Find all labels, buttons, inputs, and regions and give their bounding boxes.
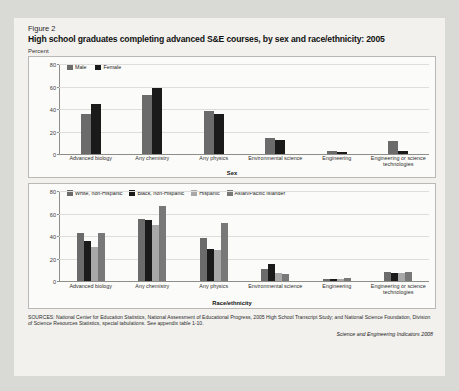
y-tick-mark [57,87,59,88]
bar [142,95,152,154]
bar [261,269,268,281]
chart-panel-race: White, non-HispanicBlack, non-HispanicHi… [28,183,436,309]
bar [77,233,84,281]
bar [384,272,391,281]
bar-group [183,65,245,154]
source-note: SOURCES: National Center for Education S… [28,314,433,327]
bar [275,140,285,154]
y-tick-mark [57,191,59,192]
y-tick-mark [57,259,59,260]
y-tick-mark [57,281,59,282]
bar [391,273,398,281]
bar [268,264,275,281]
y-tick-label: 80 [50,62,56,68]
unit-label: Percent [28,47,435,55]
y-tick-mark [57,64,59,65]
bar [265,138,275,154]
bar [327,151,337,154]
y-tick-mark [57,154,59,155]
bar [405,272,412,281]
y-tick-mark [57,132,59,133]
x-tick-label: Any physics [183,283,245,295]
bar [91,247,98,281]
bar-group [245,65,307,154]
y-tick-label: 0 [53,152,56,158]
bar [200,238,207,281]
y-tick-mark [57,109,59,110]
bar-group [245,192,307,281]
bar [98,233,105,281]
chart-panel-sex: MaleFemale 020406080 Advanced biologyAny… [28,56,436,178]
bar [84,241,91,281]
x-tick-label: Any chemistry [122,155,184,167]
bar-group [306,192,368,281]
figure-header: Figure 2 High school graduates completin… [14,18,445,55]
bar [337,279,344,281]
bar [204,111,214,154]
x-tick-label: Advanced biology [60,155,122,167]
bar-group [122,192,184,281]
figure-title: High school graduates completing advance… [28,34,435,45]
x-tick-label: Engineering or science technologies [368,155,430,167]
bar-group [368,192,430,281]
bar-group [60,65,122,154]
x-tick-label: Environmental science [245,283,307,295]
y-tick-label: 60 [50,212,56,218]
y-tick-label: 20 [50,130,56,136]
bar [344,278,351,281]
bar-group [368,65,430,154]
bar [282,274,289,281]
x-tick-label: Engineering [306,283,368,295]
bar [388,141,398,154]
bar [152,225,159,281]
bar [214,250,221,281]
bar [91,104,101,154]
x-axis-title-sex: Sex [29,170,435,176]
bar [145,220,152,281]
y-tick-label: 40 [50,107,56,113]
y-tick-label: 20 [50,257,56,263]
bar-group [183,192,245,281]
bar-group [60,192,122,281]
bar-group [306,65,368,154]
bar [159,206,166,281]
bar-groups [60,192,429,281]
bar [207,249,214,281]
bar [275,273,282,281]
bar [214,114,224,154]
y-tick-label: 60 [50,85,56,91]
x-axis-title-race: Race/ethnicity [29,300,435,306]
bar-group [122,65,184,154]
x-tick-labels-sex: Advanced biologyAny chemistryAny physics… [60,155,429,167]
bar [330,279,337,281]
figure-number: Figure 2 [28,24,435,34]
bar-groups [60,65,429,154]
x-tick-label: Advanced biology [60,283,122,295]
x-tick-label: Engineering or science technologies [368,283,430,295]
y-tick-mark [57,236,59,237]
bar [152,88,162,154]
x-tick-label: Any physics [183,155,245,167]
x-tick-label: Engineering [306,155,368,167]
y-tick-label: 40 [50,234,56,240]
plot-area-race: 020406080 [59,192,429,282]
bar [138,219,145,281]
y-tick-label: 0 [53,279,56,285]
x-tick-labels-race: Advanced biologyAny chemistryAny physics… [60,283,429,295]
y-tick-label: 80 [50,189,56,195]
x-tick-label: Any chemistry [122,283,184,295]
bar [323,279,330,281]
x-tick-label: Environmental science [245,155,307,167]
y-tick-mark [57,214,59,215]
figure-page: Figure 2 High school graduates completin… [14,18,445,376]
plot-area-sex: 020406080 [59,65,429,155]
bar [81,114,91,154]
bar [221,223,228,281]
bar [398,273,405,281]
attribution: Science and Engineering Indicators 2008 [28,331,433,337]
bar [398,151,408,154]
